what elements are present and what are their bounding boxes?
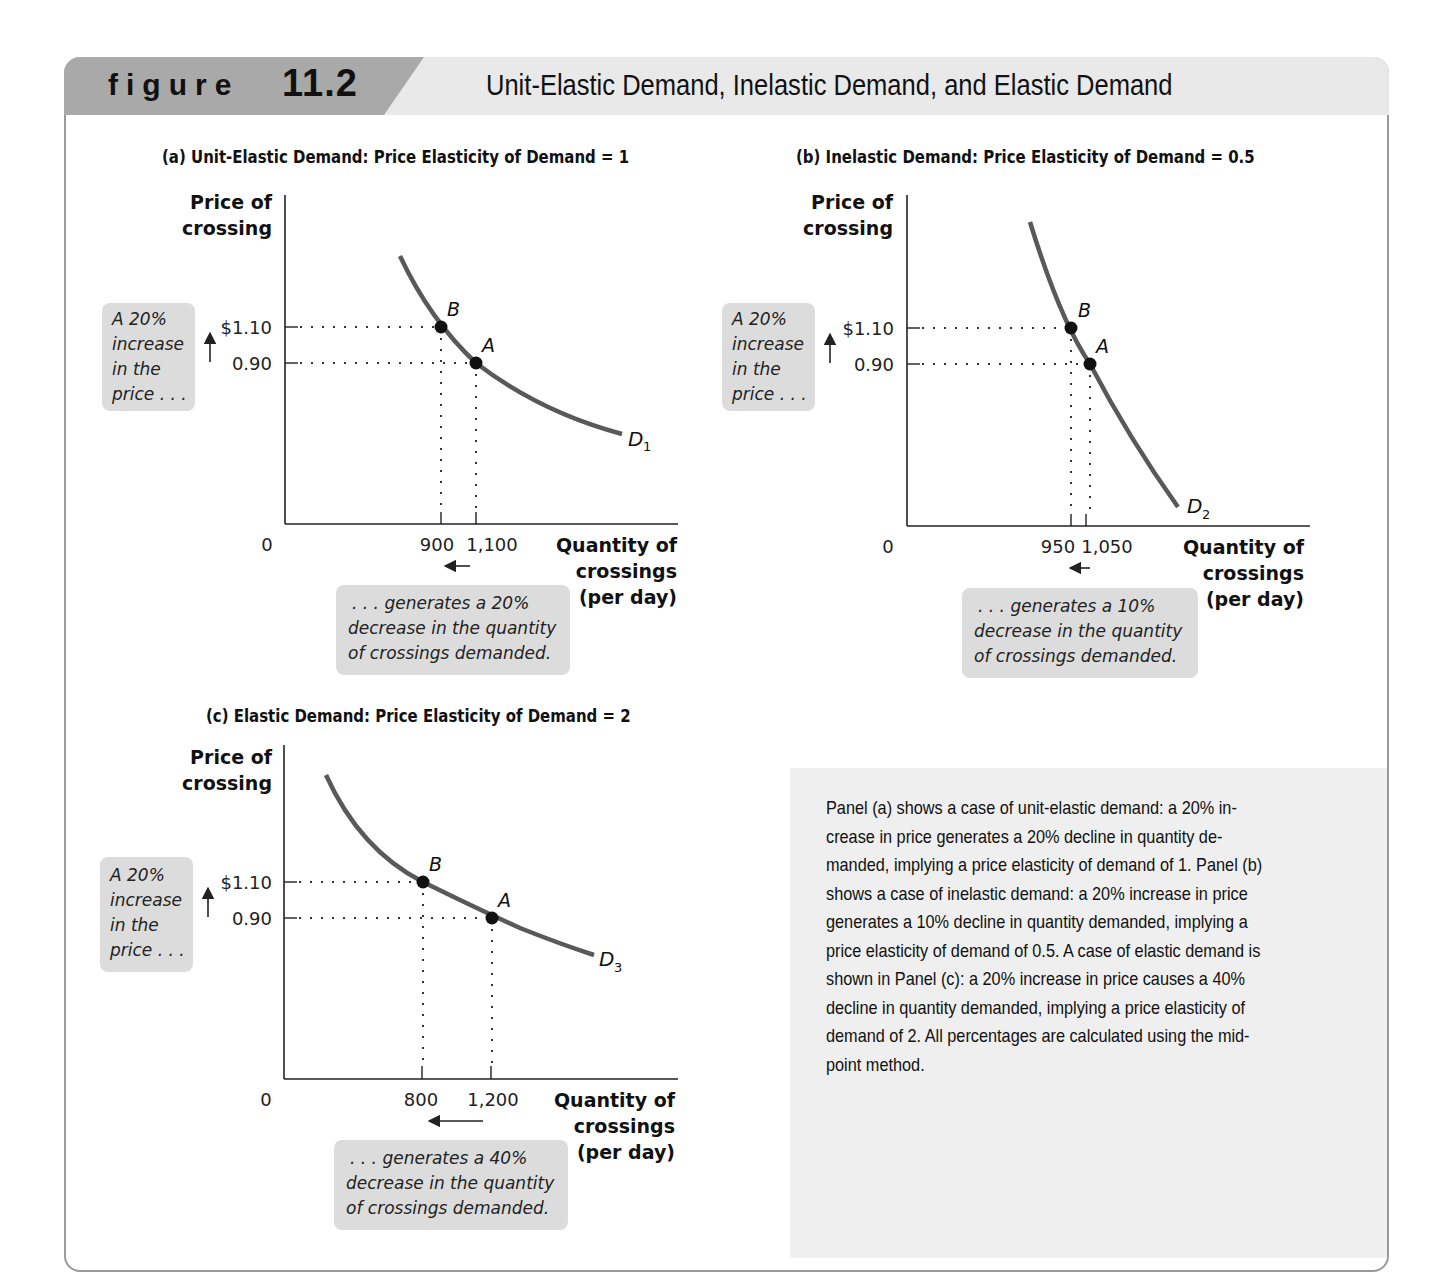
curve-label-subscript: 1 [643,439,651,454]
x-axis-label: crossings [576,560,677,582]
origin-label: 0 [261,534,272,555]
x-axis-label: crossings [574,1115,675,1137]
x-tick-low: 950 [1041,536,1075,557]
x-tick-high: 1,100 [466,534,518,555]
y-axis-label: crossing [803,217,893,239]
x-axis-label: Quantity of [556,534,678,556]
y-axis-label: crossing [182,217,272,239]
point-a [486,912,499,925]
y-tick-high: $1.10 [220,872,272,893]
x-axis-label: Quantity of [1183,536,1305,558]
point-b-label: B [429,853,442,875]
y-axis-label: Price of [190,191,273,213]
y-axis-label: Price of [811,191,894,213]
y-tick-low: 0.90 [232,353,272,374]
demand-curve-d1 [400,256,622,434]
x-axis-label: (per day) [577,1141,675,1163]
y-tick-low: 0.90 [232,908,272,929]
curve-label-d2: D [1187,494,1202,518]
point-a [470,357,483,370]
x-tick-low: 900 [420,534,454,555]
curve-label-subscript: 3 [614,960,622,975]
curve-label-d3: D [599,947,614,971]
origin-label: 0 [260,1089,271,1110]
x-axis-label: crossings [1203,562,1304,584]
y-axis-label: crossing [182,772,272,794]
point-a-label: A [1094,335,1109,357]
x-tick-high: 1,050 [1081,536,1133,557]
panel-c-chart: Price of crossing B A D 3 $1.10 0.90 0 8… [182,745,678,1163]
curve-label-subscript: 2 [1202,507,1210,522]
panel-b-chart: Price of crossing B A D 2 $1.10 0.90 0 9… [803,191,1310,610]
x-axis-label: Quantity of [554,1089,676,1111]
point-a-label: A [496,889,511,911]
curve-label-d1: D [628,427,643,451]
x-tick-low: 800 [404,1089,438,1110]
y-tick-high: $1.10 [842,318,894,339]
panel-a-chart: Price of crossing B A D 1 $1.10 0.90 0 9… [182,191,678,608]
y-axis-label: Price of [190,746,273,768]
x-axis-label: (per day) [579,586,677,608]
x-tick-high: 1,200 [467,1089,519,1110]
y-tick-high: $1.10 [220,317,272,338]
point-b-label: B [1078,299,1091,321]
point-b-label: B [447,298,460,320]
point-a [1084,358,1097,371]
origin-label: 0 [882,536,893,557]
demand-curve-d2 [1030,222,1178,507]
point-b [1065,322,1078,335]
demand-curve-d3 [326,775,594,955]
x-axis-label: (per day) [1206,588,1304,610]
point-b [435,321,448,334]
point-b [417,876,430,889]
y-tick-low: 0.90 [854,354,894,375]
point-a-label: A [480,334,495,356]
